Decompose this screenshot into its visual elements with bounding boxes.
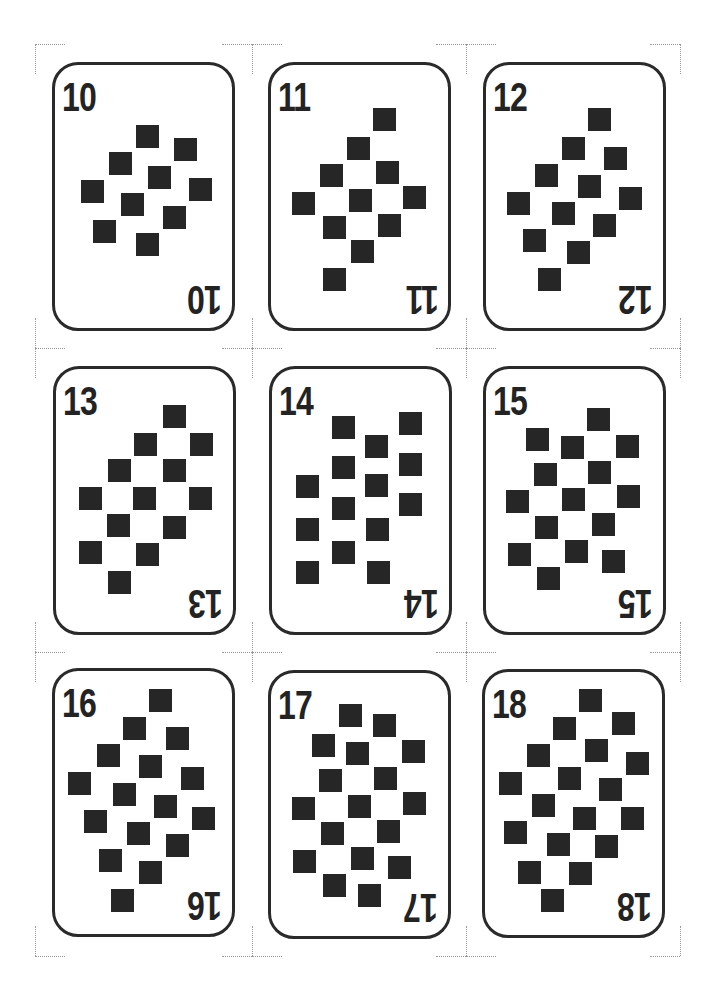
square-pip-icon <box>332 497 355 520</box>
square-pip-icon <box>97 744 120 767</box>
crop-mark <box>252 652 253 682</box>
square-pip-icon <box>518 861 541 884</box>
square-pip-icon <box>403 792 426 815</box>
square-pip-icon <box>332 456 355 479</box>
square-pip-icon <box>562 488 585 511</box>
crop-mark <box>466 348 496 349</box>
square-pip-icon <box>148 166 171 189</box>
square-pip-icon <box>348 795 371 818</box>
square-pip-icon <box>108 459 131 482</box>
square-pip-icon <box>619 187 642 210</box>
square-pip-icon <box>376 161 399 184</box>
square-pip-icon <box>504 821 527 844</box>
crop-mark <box>252 652 282 653</box>
crop-mark <box>436 44 466 45</box>
crop-mark <box>650 44 680 45</box>
square-pip-icon <box>163 459 186 482</box>
crop-mark <box>222 348 252 349</box>
square-pip-icon <box>552 202 575 225</box>
crop-mark <box>35 44 65 45</box>
square-pip-icon <box>612 712 635 735</box>
square-pip-icon <box>154 795 177 818</box>
card-value-top: 12 <box>493 77 527 118</box>
square-pip-icon <box>113 783 136 806</box>
square-pip-icon <box>602 550 625 573</box>
crop-mark <box>252 348 253 378</box>
crop-mark <box>35 926 36 956</box>
square-pip-icon <box>373 714 396 737</box>
square-pip-icon <box>136 543 159 566</box>
square-pip-icon <box>181 767 204 790</box>
crop-mark <box>466 44 467 74</box>
square-pip-icon <box>108 571 131 594</box>
square-pip-icon <box>567 241 590 264</box>
crop-mark <box>650 348 680 349</box>
square-pip-icon <box>526 428 549 451</box>
square-pip-icon <box>321 822 344 845</box>
square-pip-icon <box>569 862 592 885</box>
card-print-sheet: 10 10 11 11 12 12 13 13 14 14 15 15 16 1… <box>0 0 714 992</box>
square-pip-icon <box>358 884 381 907</box>
square-pip-icon <box>323 216 346 239</box>
square-pip-icon <box>319 769 342 792</box>
crop-mark <box>222 652 252 653</box>
square-pip-icon <box>585 739 608 762</box>
square-pip-icon <box>349 189 372 212</box>
crop-mark <box>252 926 253 956</box>
crop-mark <box>436 652 466 653</box>
crop-mark <box>680 926 681 956</box>
card-12: 12 12 <box>483 62 666 331</box>
crop-mark <box>222 44 252 45</box>
square-pip-icon <box>136 233 159 256</box>
square-pip-icon <box>351 847 374 870</box>
square-pip-icon <box>93 220 116 243</box>
square-pip-icon <box>163 405 186 428</box>
crop-mark <box>252 622 253 652</box>
crop-mark <box>35 348 36 378</box>
crop-mark <box>35 956 65 957</box>
square-pip-icon <box>374 767 397 790</box>
square-pip-icon <box>347 137 370 160</box>
crop-mark <box>466 956 496 957</box>
square-pip-icon <box>377 820 400 843</box>
crop-mark <box>466 318 467 348</box>
square-pip-icon <box>538 268 561 291</box>
card-value-bottom: 18 <box>618 886 652 927</box>
card-value-bottom: 10 <box>188 279 222 320</box>
crop-mark <box>222 956 252 957</box>
square-pip-icon <box>190 433 213 456</box>
square-pip-icon <box>403 186 426 209</box>
crop-mark <box>252 44 282 45</box>
square-pip-icon <box>189 178 212 201</box>
square-pip-icon <box>595 835 618 858</box>
square-pip-icon <box>312 734 335 757</box>
square-pip-icon <box>139 755 162 778</box>
square-pip-icon <box>587 408 610 431</box>
square-pip-icon <box>573 807 596 830</box>
square-pip-icon <box>388 856 411 879</box>
square-pip-icon <box>523 229 546 252</box>
square-pip-icon <box>617 485 640 508</box>
square-pip-icon <box>558 767 581 790</box>
square-pip-icon <box>541 889 564 912</box>
square-pip-icon <box>192 807 215 830</box>
square-pip-icon <box>399 493 422 516</box>
square-pip-icon <box>121 193 144 216</box>
square-pip-icon <box>109 152 132 175</box>
square-pip-icon <box>499 772 522 795</box>
square-pip-icon <box>547 833 570 856</box>
crop-mark <box>680 652 681 682</box>
square-pip-icon <box>79 487 102 510</box>
square-pip-icon <box>189 487 212 510</box>
square-pip-icon <box>527 744 550 767</box>
card-value-top: 10 <box>62 77 96 118</box>
crop-mark <box>252 956 282 957</box>
card-value-bottom: 14 <box>405 583 439 624</box>
square-pip-icon <box>507 192 530 215</box>
crop-mark <box>252 348 282 349</box>
square-pip-icon <box>320 164 343 187</box>
square-pip-icon <box>293 850 316 873</box>
square-pip-icon <box>378 214 401 237</box>
card-13: 13 13 <box>53 366 236 635</box>
square-pip-icon <box>373 108 396 131</box>
